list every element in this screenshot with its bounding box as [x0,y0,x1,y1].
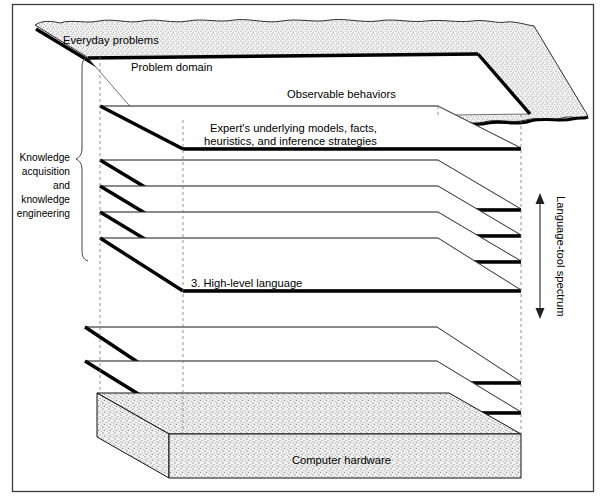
label-experts-line1: Expert's underlying models, facts, [210,122,377,134]
language-tool-spectrum-arrow [536,193,545,319]
label-computer-hardware: Computer hardware [292,454,391,466]
label-language-tool-spectrum: Language-tool spectrum [555,196,567,317]
label-problem-domain: Problem domain [131,61,212,73]
label-everyday-problems: Everyday problems [63,34,159,46]
spectrum-arrow-head-down [536,308,545,319]
brace-label-line-4: knowledge [21,194,70,205]
brace-path [76,57,88,261]
brace-label-line-5: engineering [17,208,71,219]
label-observable-behaviors: Observable behaviors [287,88,396,100]
brace-label-line-2: acquisition [22,166,70,177]
brace-label-line-3: and [53,180,70,191]
label-high-level-language: 3. High-level language [191,277,302,289]
figure-canvas: Everyday problems Problem domain Observa… [0,0,609,500]
label-experts-line2: heuristics, and inference strategies [204,135,377,147]
knowledge-acquisition-brace [76,57,88,261]
layer-computer-hardware: Computer hardware [97,393,521,478]
knowledge-acquisition-label: Knowledge acquisition and knowledge engi… [17,152,71,219]
spectrum-arrow-head-up [536,193,545,204]
brace-label-line-1: Knowledge [20,152,71,163]
layered-architecture-diagram: Everyday problems Problem domain Observa… [0,0,609,500]
computer-hardware-top-face [97,393,521,434]
